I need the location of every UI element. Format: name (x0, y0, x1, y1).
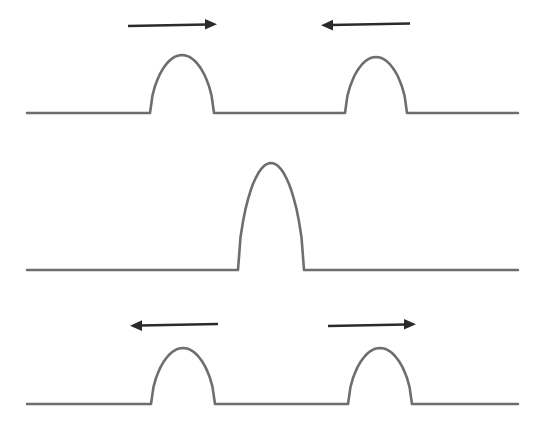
panel-pulses-separating (27, 319, 518, 404)
arrow-left-panel-1 (321, 20, 410, 31)
string-waveform-panel-3 (27, 348, 518, 404)
panel-pulses-approaching (27, 19, 518, 113)
wave-diagram-canvas (0, 0, 537, 442)
panel-pulses-overlapping (27, 163, 518, 270)
string-waveform-panel-2 (27, 163, 518, 270)
arrow-right-panel-1 (128, 19, 217, 30)
arrow-right-panel-3 (328, 319, 416, 330)
wave-superposition-figure (0, 0, 537, 442)
arrow-left-panel-3 (130, 320, 218, 331)
string-waveform-panel-1 (27, 55, 518, 113)
